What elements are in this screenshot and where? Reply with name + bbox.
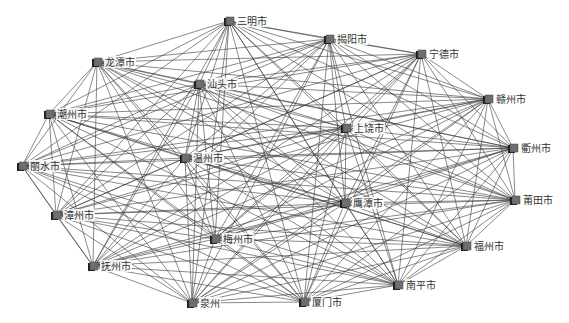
edge (513, 148, 515, 200)
edge (346, 54, 421, 128)
edge (22, 166, 192, 303)
network-graph: 三明市揭阳市宁德市赣州市衢州市莆田市福州市南平市厦门市泉州抚州市漳州市丽水市潮州… (0, 0, 569, 323)
node-square-icon (189, 299, 197, 307)
node-square-icon (90, 262, 98, 270)
node-label: 上饶市 (354, 122, 384, 134)
edge (329, 39, 488, 99)
edge (199, 21, 229, 84)
node-yingtan[interactable]: 鹰潭市 (340, 197, 384, 209)
node-label: 梅州市 (223, 233, 253, 245)
edge (93, 246, 466, 266)
node-label: 赣州市 (496, 93, 526, 105)
node-label: 抚州市 (101, 260, 131, 272)
edge (192, 203, 345, 303)
node-wenzhou[interactable]: 温州市 (180, 152, 224, 164)
node-square-icon (19, 162, 27, 170)
node-chaozhou[interactable]: 潮州市 (44, 108, 88, 120)
node-sanming[interactable]: 三明市 (224, 15, 268, 27)
node-lishui[interactable]: 丽水市 (17, 160, 61, 172)
edge (22, 148, 513, 166)
node-label: 南平市 (406, 279, 436, 291)
edge (398, 148, 513, 285)
node-label: 温州市 (193, 152, 223, 164)
node-ganzhou[interactable]: 赣州市 (483, 93, 527, 105)
node-shangrao[interactable]: 上饶市 (341, 122, 385, 134)
node-xiamen[interactable]: 厦门市 (299, 296, 343, 308)
node-square-icon (485, 95, 493, 103)
node-label: 揭阳市 (337, 33, 367, 45)
node-square-icon (53, 211, 61, 219)
node-nanping[interactable]: 南平市 (393, 279, 437, 291)
node-longtan[interactable]: 龙潭市 (92, 56, 136, 68)
node-square-icon (301, 298, 309, 306)
node-label: 丽水市 (30, 160, 60, 172)
edge (346, 128, 466, 246)
edge (466, 200, 515, 246)
edge (22, 114, 49, 166)
node-square-icon (510, 144, 518, 152)
node-label: 衢州市 (521, 142, 551, 154)
node-square-icon (342, 199, 350, 207)
edge (304, 246, 466, 302)
edge (49, 114, 513, 148)
node-ningde[interactable]: 宁德市 (416, 48, 460, 60)
node-label: 潮州市 (57, 108, 87, 120)
node-square-icon (182, 154, 190, 162)
node-putian[interactable]: 莆田市 (510, 194, 554, 206)
node-square-icon (326, 35, 334, 43)
node-square-icon (46, 110, 54, 118)
node-label: 龙潭市 (105, 56, 135, 68)
edge (345, 128, 346, 203)
node-quanzhou[interactable]: 泉州 (187, 297, 221, 309)
node-jieyang[interactable]: 揭阳市 (324, 33, 368, 45)
node-label: 鹰潭市 (353, 197, 383, 209)
edge (398, 54, 421, 285)
node-square-icon (226, 17, 234, 25)
node-label: 泉州 (200, 297, 220, 309)
node-square-icon (463, 242, 471, 250)
edge (421, 54, 515, 200)
edge (97, 21, 229, 62)
edge (199, 84, 513, 148)
node-label: 漳州市 (64, 209, 94, 221)
node-square-icon (343, 124, 351, 132)
edge (56, 200, 515, 215)
node-square-icon (212, 235, 220, 243)
node-square-icon (418, 50, 426, 58)
node-label: 福州市 (474, 240, 504, 252)
node-fuzhou2[interactable]: 抚州市 (88, 260, 132, 272)
edge (49, 21, 229, 114)
node-square-icon (395, 281, 403, 289)
node-square-icon (94, 58, 102, 66)
edge (22, 166, 56, 215)
node-meizhou[interactable]: 梅州市 (210, 233, 254, 245)
node-shantou[interactable]: 汕头市 (194, 78, 238, 90)
node-zhangzhou[interactable]: 漳州市 (51, 209, 95, 221)
node-label: 三明市 (237, 15, 267, 27)
node-label: 宁德市 (429, 48, 459, 60)
node-quzhou[interactable]: 衢州市 (508, 142, 552, 154)
edge (421, 54, 488, 99)
node-square-icon (196, 80, 204, 88)
edge (229, 21, 304, 302)
node-square-icon (512, 196, 520, 204)
edge (93, 62, 97, 266)
node-fuzhou[interactable]: 福州市 (461, 240, 505, 252)
node-label: 厦门市 (312, 296, 342, 308)
node-label: 汕头市 (207, 78, 237, 90)
node-label: 莆田市 (523, 194, 553, 206)
